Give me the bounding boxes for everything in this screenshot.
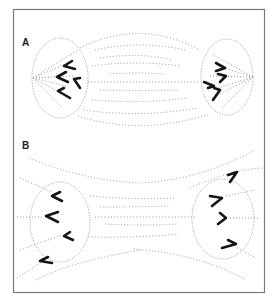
chromosome: [64, 232, 73, 240]
panel-b-label: B: [22, 140, 29, 151]
panel-a-spindle-fibers: [78, 33, 210, 125]
mitotic-spindle-figure: A B: [0, 0, 274, 301]
panel-a-diagram: [32, 33, 253, 125]
chromosome: [210, 196, 222, 206]
figure-canvas: [0, 0, 274, 301]
panel-b-left-chromosomes: [40, 192, 73, 263]
chromosome: [216, 63, 225, 71]
chromosome: [64, 61, 75, 69]
chromosome: [46, 212, 58, 222]
panel-b-right-chromosomes: [210, 172, 237, 248]
chromosome: [204, 82, 214, 88]
panel-a-right-chromosomes: [204, 63, 226, 100]
panel-a-left-pole-fibers: [33, 50, 78, 108]
chromosome: [218, 213, 226, 224]
chromosome: [218, 74, 226, 82]
panel-a-right-pole-envelope: [201, 39, 253, 115]
chromosome: [228, 172, 237, 182]
chromosome: [222, 240, 236, 248]
chromosome: [58, 88, 70, 98]
chromosome: [213, 88, 220, 100]
panel-b-left-splayed-fibers: [17, 178, 140, 280]
panel-b-diagram: [17, 150, 262, 280]
chromosome: [57, 72, 68, 82]
chromosome: [74, 78, 80, 88]
figure-frame: [14, 10, 265, 293]
chromosome: [52, 192, 62, 201]
panel-a-left-chromosomes: [57, 61, 80, 98]
panel-a-label: A: [22, 37, 29, 48]
panel-b-right-splayed-fibers: [134, 190, 258, 280]
panel-b-spindle-fibers: [30, 150, 262, 237]
panel-b-left-pole-envelope: [30, 182, 90, 262]
